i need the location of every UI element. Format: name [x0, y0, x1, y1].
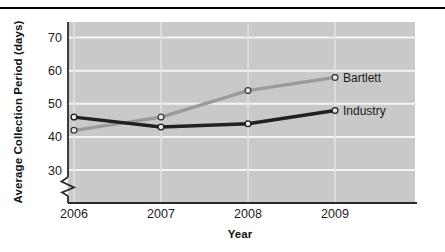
- x-axis-title: Year: [228, 228, 253, 240]
- x-tick-label-2009: 2009: [321, 207, 349, 221]
- y-tick-label-50: 50: [48, 97, 62, 111]
- series-label-bartlett: Bartlett: [343, 71, 382, 85]
- data-point-industry-2006: [71, 114, 77, 120]
- y-tick-label-60: 60: [48, 64, 62, 78]
- y-axis-title: Average Collection Period (days): [12, 20, 24, 203]
- data-point-industry-2007: [158, 124, 164, 130]
- y-tick-label-70: 70: [48, 31, 62, 45]
- data-point-bartlett-2006: [71, 127, 77, 133]
- y-tick-label-40: 40: [48, 130, 62, 144]
- y-tick-label-30: 30: [48, 164, 62, 178]
- series-label-industry: Industry: [343, 104, 386, 118]
- data-point-industry-2008: [245, 121, 251, 127]
- data-point-industry-2009: [332, 108, 338, 114]
- data-point-bartlett-2007: [158, 114, 164, 120]
- x-tick-label-2007: 2007: [147, 207, 175, 221]
- chart-figure: Bartlett Industry 70 60 50 40 30 2006 20…: [0, 0, 445, 252]
- x-tick-label-2008: 2008: [234, 207, 262, 221]
- x-tick-label-2006: 2006: [60, 207, 88, 221]
- data-point-bartlett-2009: [332, 75, 338, 81]
- line-chart: Bartlett Industry 70 60 50 40 30 2006 20…: [0, 0, 445, 252]
- data-point-bartlett-2008: [245, 88, 251, 94]
